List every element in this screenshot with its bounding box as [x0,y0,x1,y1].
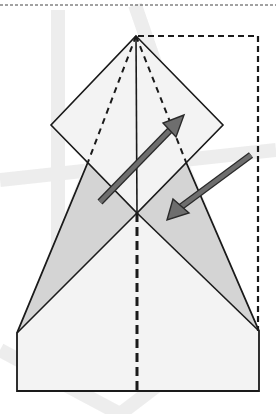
origami-diagram [0,0,276,414]
center-line-solid [136,36,137,213]
